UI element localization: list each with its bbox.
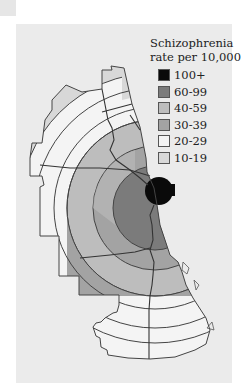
legend-label: 100+ [174,68,206,82]
legend-item-10-19: 10-19 [158,150,244,167]
legend-item-30-39: 30-39 [158,117,244,134]
legend-item-60-99: 60-99 [158,84,244,101]
legend-swatch [158,135,170,147]
legend-swatch [158,69,170,81]
legend-label: 40-59 [174,101,207,115]
legend-label: 10-19 [174,151,207,165]
legend-swatch [158,152,170,164]
legend-swatch [158,119,170,131]
legend-label: 30-39 [174,118,207,132]
legend-swatch [158,102,170,114]
legend-title-line1: Schizophrenia [150,36,244,50]
legend-label: 60-99 [174,85,207,99]
legend-title: Schizophrenia rate per 10,000 [150,36,244,64]
legend-item-40-59: 40-59 [158,100,244,117]
legend-label: 20-29 [174,134,207,148]
legend-items: 100+ 60-99 40-59 30-39 20-29 10-19 [158,67,244,166]
legend-swatch [158,86,170,98]
legend-item-100-plus: 100+ [158,67,244,84]
legend: Schizophrenia rate per 10,000 100+ 60-99… [148,36,244,166]
legend-title-line2: rate per 10,000 [150,50,244,64]
legend-item-20-29: 20-29 [158,133,244,150]
core-100-plus [145,177,175,205]
